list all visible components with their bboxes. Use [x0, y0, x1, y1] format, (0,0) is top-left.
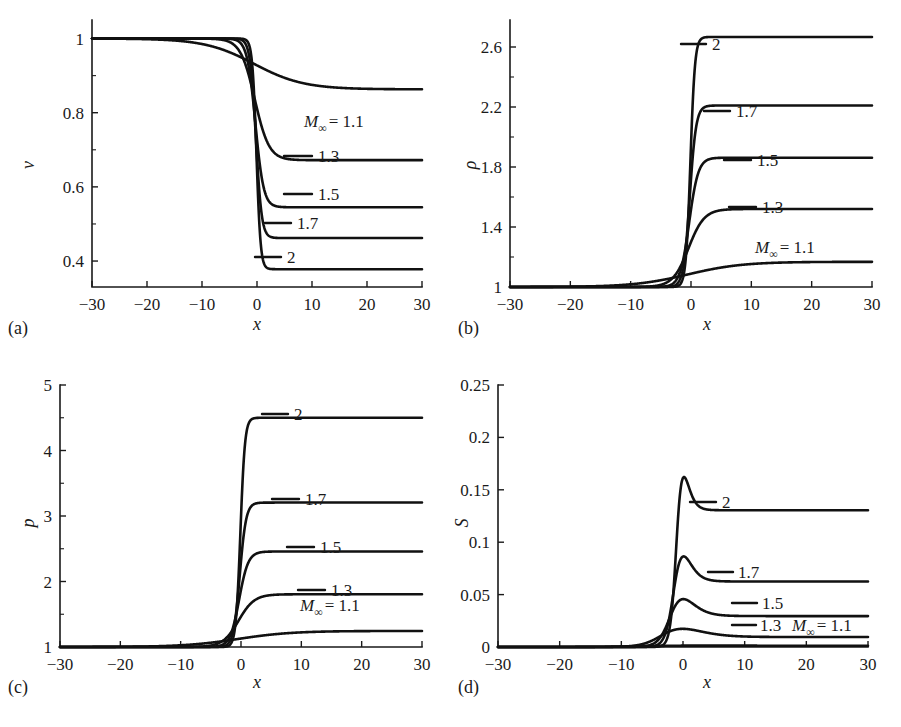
curve-2: [60, 418, 422, 647]
x-tick-label: 10: [304, 295, 321, 314]
x-tick-label: 30: [864, 295, 881, 314]
y-tick-label: 2.2: [481, 98, 502, 117]
x-tick-label: 20: [353, 655, 370, 674]
figure-container: −30−20−1001020300.40.60.81 v x (a) M∞= 1…: [0, 0, 901, 727]
curve-label-1-3: 1.3: [318, 147, 339, 166]
panel-c-plot: −30−20−10010203012345 p x (c) M∞= 1.1 1.…: [0, 363, 450, 726]
y-tick-label: 1.8: [481, 158, 502, 177]
x-tick-label: −20: [107, 655, 134, 674]
x-tick-label: 30: [414, 655, 431, 674]
y-tick-label: 2: [44, 573, 53, 592]
y-tick-label: 0.4: [63, 252, 85, 271]
x-tick-label: 10: [293, 655, 310, 674]
panel-c-curves: [60, 418, 422, 647]
y-tick-label: 2.6: [481, 38, 502, 57]
panel-b-curve-labels: 1.3 1.5 1.7 2: [712, 35, 783, 217]
panel-a-mach-annotation: M∞= 1.1: [303, 112, 364, 135]
y-tick-label: 0.8: [63, 104, 84, 123]
panel-b-mach-symbol: M: [754, 238, 770, 257]
curve-label-1-3: 1.3: [762, 198, 783, 217]
panel-d-label: (d): [458, 677, 479, 698]
x-tick-label: −10: [167, 655, 194, 674]
y-tick-label: 0.05: [460, 586, 490, 605]
curve-label-1-7: 1.7: [297, 214, 319, 233]
curve-label-1-7: 1.7: [305, 490, 327, 509]
y-tick-label: 1: [494, 278, 503, 297]
panel-a-x-axis-label: x: [252, 314, 261, 334]
panel-a-mach-value: = 1.1: [329, 112, 364, 131]
svg-text:M∞= 1.1: M∞= 1.1: [791, 616, 852, 639]
panel-b-label: (b): [458, 318, 479, 339]
panel-b-curves: [510, 37, 872, 287]
curve-label-1-3: 1.3: [331, 581, 352, 600]
x-tick-label: 10: [736, 655, 753, 674]
panel-c-y-axis-label: p: [18, 519, 38, 530]
curve-m-inf-1-1: [92, 39, 422, 90]
panel-d: −30−20−10010203000.050.10.150.20.25 S x …: [450, 363, 900, 726]
y-tick-label: 0.2: [469, 428, 490, 447]
curve-label-1-5: 1.5: [757, 151, 778, 170]
panel-b-mach-annotation: M∞= 1.1: [754, 238, 815, 261]
x-tick-label: −20: [546, 655, 573, 674]
curve-label-1-3: 1.3: [760, 616, 781, 635]
x-tick-label: −10: [189, 295, 216, 314]
panel-d-y-axis-label: S: [452, 519, 472, 528]
panel-d-mach-value: = 1.1: [817, 616, 852, 635]
x-tick-label: −10: [617, 295, 644, 314]
panel-b-x-axis-label: x: [702, 314, 711, 334]
y-tick-label: 1: [76, 30, 85, 49]
panel-d-mach-annotation: M∞= 1.1: [791, 616, 852, 639]
panel-a-label: (a): [8, 318, 28, 339]
x-tick-label: 20: [359, 295, 376, 314]
x-tick-label: −10: [608, 655, 635, 674]
x-tick-label: 10: [743, 295, 760, 314]
panel-a-mach-subscript: ∞: [318, 121, 327, 135]
curve-label-1-5: 1.5: [320, 538, 341, 557]
panel-a-plot: −30−20−1001020300.40.60.81 v x (a) M∞= 1…: [0, 0, 450, 363]
y-tick-label: 0.15: [460, 481, 490, 500]
panel-c-tick-labels: −30−20−10010203012345: [44, 376, 431, 674]
x-tick-label: 0: [687, 295, 696, 314]
x-tick-label: −30: [47, 655, 74, 674]
curve-label-1-5: 1.5: [318, 185, 339, 204]
panel-a-mach-symbol: M: [303, 112, 319, 131]
panel-d-mach-subscript: ∞: [806, 625, 815, 639]
panel-d-plot: −30−20−10010203000.050.10.150.20.25 S x …: [450, 363, 900, 726]
y-tick-label: 1.4: [481, 218, 503, 237]
panel-b-plot: −30−20−10010203011.41.82.22.6 ρ x (b) M∞…: [450, 0, 900, 363]
x-tick-label: 30: [860, 655, 877, 674]
curve-label-2: 2: [712, 35, 721, 54]
y-tick-label: 4: [44, 442, 53, 461]
panel-c-x-axis-label: x: [252, 672, 261, 692]
x-tick-label: −20: [557, 295, 584, 314]
y-tick-label: 0: [482, 638, 491, 657]
x-tick-label: 0: [679, 655, 688, 674]
panel-c-mach-symbol: M: [299, 596, 315, 615]
x-tick-label: −30: [497, 295, 524, 314]
curve-1-5: [498, 599, 868, 647]
y-tick-label: 0.6: [63, 178, 84, 197]
y-tick-label: 5: [44, 376, 53, 395]
curve-label-2: 2: [287, 248, 296, 267]
panel-c-label: (c): [8, 677, 28, 698]
svg-text:M∞= 1.1: M∞= 1.1: [303, 112, 364, 135]
y-tick-label: 0.25: [460, 376, 490, 395]
curve-label-1-7: 1.7: [736, 102, 758, 121]
curve-2: [498, 477, 868, 647]
panel-d-curves: [498, 477, 868, 647]
x-tick-label: 20: [803, 295, 820, 314]
panel-a: −30−20−1001020300.40.60.81 v x (a) M∞= 1…: [0, 0, 450, 363]
curve-2: [92, 39, 422, 270]
panel-c-mach-subscript: ∞: [314, 605, 323, 619]
curve-1-3: [510, 209, 872, 287]
x-tick-label: −30: [485, 655, 512, 674]
y-tick-label: 3: [44, 507, 53, 526]
svg-text:M∞= 1.1: M∞= 1.1: [754, 238, 815, 261]
curve-2: [510, 37, 872, 287]
panel-d-axes: [498, 385, 868, 647]
x-tick-label: 0: [237, 655, 246, 674]
panel-b-mach-subscript: ∞: [769, 247, 778, 261]
panel-a-y-axis-label: v: [18, 161, 38, 169]
panel-d-curve-labels: 1.3 1.5 1.7 2: [722, 493, 783, 635]
x-tick-label: 0: [253, 295, 262, 314]
